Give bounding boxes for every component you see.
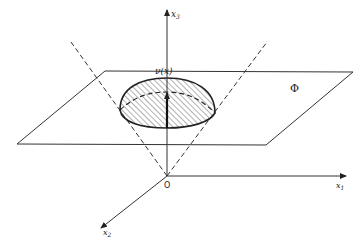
plane-label: Φ xyxy=(290,82,299,95)
x1-label: x1 xyxy=(336,181,344,191)
x2-axis xyxy=(101,176,167,228)
origin-label: O xyxy=(164,181,170,190)
diagram-canvas: x3 ν(x) Φ O x1 x2 xyxy=(0,0,363,247)
x2-label: x2 xyxy=(103,228,112,238)
normal-label: ν(x) xyxy=(155,66,173,76)
x3-label: x3 xyxy=(171,9,180,20)
